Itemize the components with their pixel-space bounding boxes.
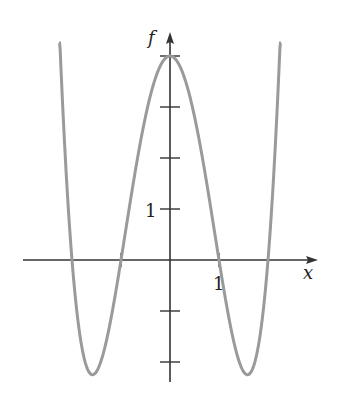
x-axis-label: x	[303, 262, 313, 283]
y-axis-label: f	[146, 27, 158, 48]
function-plot: x f 1 1	[0, 0, 337, 397]
x-tick-label-1: 1	[213, 273, 224, 294]
y-tick-label-1: 1	[145, 200, 156, 221]
